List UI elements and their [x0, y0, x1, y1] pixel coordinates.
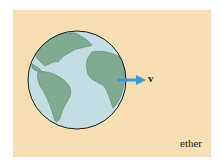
- ether-label: ether: [180, 137, 202, 149]
- velocity-label: v: [148, 72, 154, 84]
- earth-globe: [28, 31, 126, 129]
